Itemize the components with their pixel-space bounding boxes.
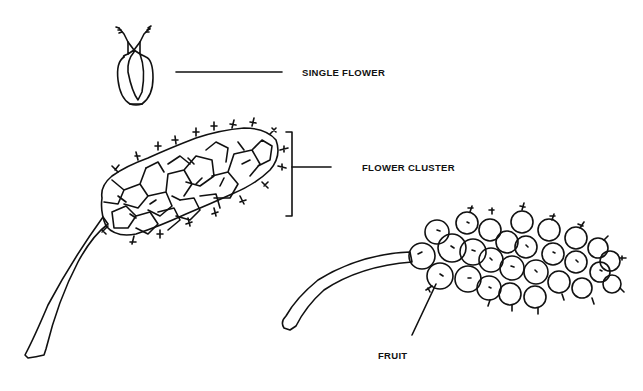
fruit-label: FRUIT (378, 350, 407, 361)
flower-cluster-drawing (102, 118, 289, 244)
single-flower-drawing (116, 26, 153, 105)
flower-cluster-label: FLOWER CLUSTER (362, 162, 455, 173)
fruit-leader-line (412, 284, 436, 335)
diagram-canvas (0, 0, 643, 391)
fruit-stalk (282, 252, 412, 330)
flower-cluster-stalk (25, 217, 108, 358)
flower-cluster-bracket (286, 132, 292, 216)
single-flower-label: SINGLE FLOWER (302, 67, 385, 78)
fruit-cluster-drawing (409, 203, 626, 314)
